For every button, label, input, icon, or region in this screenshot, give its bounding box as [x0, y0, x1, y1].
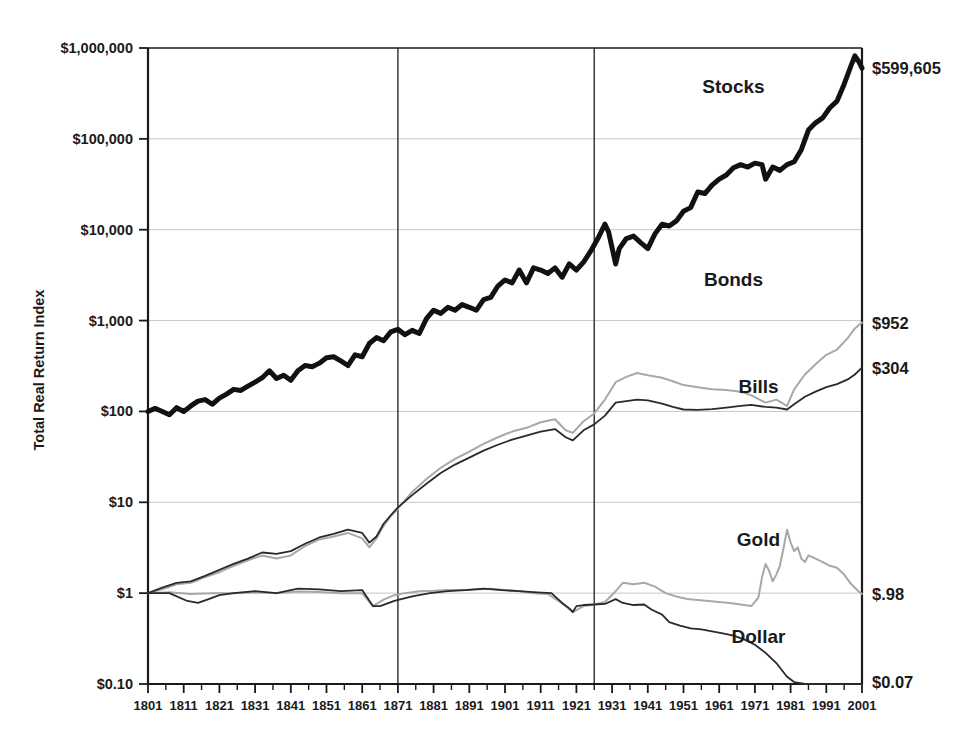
y-tick-label-100000: $100,000 [73, 131, 133, 147]
x-tick-label-1931: 1931 [598, 698, 627, 713]
y-tick-label-1000: $1,000 [89, 313, 133, 329]
x-tick-label-2001: 2001 [848, 698, 877, 713]
series-label-dollar: Dollar [732, 626, 786, 647]
end-label-gold: $.98 [872, 585, 904, 603]
series-label-bills: Bills [738, 376, 778, 397]
y-tick-label-1000000: $1,000,000 [60, 40, 133, 56]
x-tick-label-1971: 1971 [740, 698, 769, 713]
chart-container: $1,000,000$100,000$10,000$1,000$100$10$1… [0, 0, 980, 753]
series-label-stocks: Stocks [702, 76, 764, 97]
y-tick-label-10000: $10,000 [81, 222, 133, 238]
end-label-bills: $304 [872, 359, 910, 377]
y-axis-title: Total Real Return Index [31, 290, 47, 451]
x-tick-label-1911: 1911 [527, 698, 555, 713]
x-tick-label-1881: 1881 [419, 698, 448, 713]
y-tick-label-10: $10 [109, 494, 133, 510]
series-label-bonds: Bonds [704, 269, 763, 290]
x-tick-label-1961: 1961 [705, 698, 734, 713]
x-tick-label-1901: 1901 [491, 698, 520, 713]
x-tick-label-1891: 1891 [455, 698, 484, 713]
x-tick-label-1871: 1871 [383, 698, 412, 713]
x-tick-label-1851: 1851 [312, 698, 341, 713]
x-tick-label-1941: 1941 [633, 698, 662, 713]
total-real-return-chart: $1,000,000$100,000$10,000$1,000$100$10$1… [0, 0, 980, 753]
x-tick-label-1991: 1991 [812, 698, 841, 713]
x-tick-label-1951: 1951 [669, 698, 698, 713]
x-tick-label-1831: 1831 [241, 698, 270, 713]
end-label-bonds: $952 [872, 314, 909, 332]
y-tick-label-1: $1 [117, 585, 133, 601]
x-tick-label-1921: 1921 [562, 698, 591, 713]
end-label-dollar: $0.07 [872, 673, 913, 691]
x-tick-label-1821: 1821 [205, 698, 234, 713]
x-axis-tickmarks [148, 684, 862, 693]
series-label-gold: Gold [737, 529, 780, 550]
x-tick-label-1841: 1841 [276, 698, 305, 713]
x-tick-label-1811: 1811 [170, 698, 198, 713]
y-tick-label-100: $100 [101, 403, 133, 419]
x-tick-label-1801: 1801 [134, 698, 163, 713]
x-tick-label-1981: 1981 [776, 698, 805, 713]
x-axis-tick-labels: 1801181118211831184118511861187118811891… [134, 698, 877, 713]
x-tick-label-1861: 1861 [348, 698, 377, 713]
end-label-stocks: $599,605 [872, 59, 941, 77]
y-tick-label-0.1: $0.10 [97, 676, 133, 692]
